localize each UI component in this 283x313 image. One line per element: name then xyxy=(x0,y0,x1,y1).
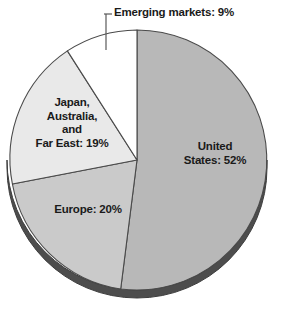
slice-label-europe: Europe: 20% xyxy=(36,203,140,217)
callout-label-emerging-markets-line-1: Emerging markets: 9% xyxy=(114,6,234,20)
slice-label-japan-australia-far-east: Japan, Australia, and Far East: 19% xyxy=(12,96,132,150)
callout-label-emerging-markets: Emerging markets: 9% xyxy=(114,6,234,20)
slice-label-united-states-line-1: United xyxy=(160,140,270,154)
slice-label-europe-line-1: Europe: 20% xyxy=(36,203,140,217)
slice-label-united-states: United States: 52% xyxy=(160,140,270,167)
slice-label-japan-line-2: Australia, xyxy=(12,110,132,124)
slice-label-japan-line-3: and xyxy=(12,123,132,137)
slice-label-united-states-line-2: States: 52% xyxy=(160,154,270,168)
slice-label-japan-line-4: Far East: 19% xyxy=(12,137,132,151)
pie-chart: United States: 52% Europe: 20% Japan, Au… xyxy=(0,0,283,313)
slice-label-japan-line-1: Japan, xyxy=(12,96,132,110)
